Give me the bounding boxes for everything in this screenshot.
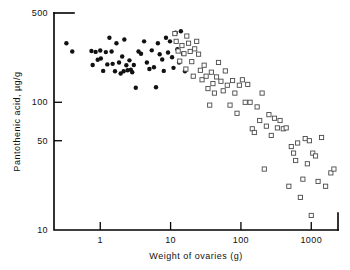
data-point-open (190, 60, 194, 64)
data-point-filled (171, 66, 175, 70)
x-tick-label: 1000 (300, 235, 322, 245)
data-point-filled (179, 29, 183, 33)
data-point-filled (147, 67, 151, 71)
data-point-filled (134, 86, 138, 90)
data-point-open (200, 78, 204, 82)
data-points (64, 29, 336, 218)
data-point-open (267, 113, 271, 117)
data-point-filled (90, 63, 94, 67)
data-point-open (252, 130, 256, 134)
data-point-open (235, 111, 239, 115)
data-point-open (230, 78, 234, 82)
data-point-filled (127, 58, 131, 62)
data-point-open (246, 82, 250, 86)
data-point-filled (160, 57, 164, 61)
data-point-open (255, 105, 259, 109)
data-point-open (289, 144, 293, 148)
data-point-open (184, 67, 188, 71)
data-point-open (294, 158, 298, 162)
data-point-open (303, 136, 307, 140)
x-axis-title: Weight of ovaries (g) (149, 251, 242, 261)
data-point-filled (150, 48, 154, 52)
data-point-filled (105, 62, 109, 66)
axis-ticks (54, 102, 311, 230)
data-point-open (272, 116, 276, 120)
data-point-open (258, 118, 262, 122)
data-point-open (278, 118, 282, 122)
data-point-filled (142, 39, 146, 43)
data-point-open (176, 49, 180, 53)
data-point-open (211, 82, 215, 86)
x-tick-label: 100 (233, 235, 249, 245)
data-point-filled (132, 63, 136, 67)
data-point-open (186, 41, 190, 45)
data-point-open (296, 141, 300, 145)
data-point-filled (162, 69, 166, 73)
data-point-open (208, 103, 212, 107)
data-point-open (319, 135, 323, 139)
data-point-filled (157, 52, 161, 56)
data-point-filled (145, 60, 149, 64)
data-point-filled (104, 50, 108, 54)
data-point-open (298, 195, 302, 199)
data-point-filled (166, 50, 170, 54)
data-point-filled (168, 39, 172, 43)
data-point-filled (122, 37, 126, 41)
data-point-open (209, 70, 213, 74)
data-point-filled (154, 85, 158, 89)
data-point-filled (164, 36, 168, 40)
data-point-open (191, 74, 195, 78)
data-point-open (223, 69, 227, 73)
data-point-open (248, 100, 252, 104)
data-point-filled (93, 50, 97, 54)
data-point-filled (121, 69, 125, 73)
data-point-open (174, 39, 178, 43)
data-point-filled (70, 49, 74, 53)
scatter-plot: 10501005001101001000 Weight of ovaries (… (0, 0, 350, 270)
x-tick-label: 1 (98, 235, 103, 245)
data-point-filled (89, 49, 93, 53)
data-point-open (202, 63, 206, 67)
data-point-open (324, 184, 328, 188)
data-point-open (309, 213, 313, 217)
x-tick-label: 10 (165, 235, 176, 245)
data-point-filled (98, 48, 102, 52)
data-point-open (228, 103, 232, 107)
data-point-filled (101, 69, 105, 73)
data-point-open (225, 83, 229, 87)
data-point-filled (130, 70, 134, 74)
data-point-filled (99, 56, 103, 60)
data-point-open (206, 86, 210, 90)
data-point-open (237, 83, 241, 87)
data-point-open (180, 43, 184, 47)
data-point-filled (64, 41, 68, 45)
data-point-open (195, 39, 199, 43)
data-point-open (216, 60, 220, 64)
data-point-open (173, 31, 177, 35)
data-point-open (316, 179, 320, 183)
series-open-squares (173, 31, 336, 217)
data-point-filled (117, 60, 121, 64)
data-point-filled (124, 63, 128, 67)
data-point-open (196, 52, 200, 56)
data-point-filled (113, 69, 117, 73)
data-point-filled (139, 52, 143, 56)
series-filled-circles (64, 29, 187, 90)
data-point-filled (109, 49, 113, 53)
data-point-open (214, 75, 218, 79)
data-point-open (275, 126, 279, 130)
data-point-open (287, 184, 291, 188)
data-point-filled (170, 55, 174, 59)
y-tick-label: 500 (32, 8, 48, 18)
data-point-filled (156, 41, 160, 45)
data-point-open (219, 79, 223, 83)
data-point-open (332, 167, 336, 171)
data-point-filled (120, 54, 124, 58)
y-tick-label: 50 (37, 136, 48, 146)
y-tick-label: 10 (37, 225, 48, 235)
data-point-open (264, 124, 268, 128)
data-point-open (204, 74, 208, 78)
data-point-filled (107, 36, 111, 40)
data-point-open (185, 34, 189, 38)
data-point-open (233, 91, 237, 95)
